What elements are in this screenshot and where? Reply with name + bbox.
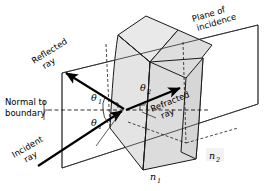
theta1-reflection-subscript: 1 [98, 98, 102, 106]
n1-symbol: n [150, 171, 156, 182]
reflected-ray-label: Reflected ray [30, 36, 74, 74]
n2-symbol: n [209, 150, 215, 161]
theta2-subscript: 2 [146, 88, 151, 96]
incident-ray-line [38, 111, 122, 166]
theta1-incidence-subscript: 1 [98, 123, 102, 131]
theta1-reflection-symbol: θ [91, 92, 97, 103]
index-n1-label: n 1 [150, 171, 161, 185]
theta1-incidence-symbol: θ [91, 117, 97, 128]
normal-to-boundary-label: Normal to boundary [5, 97, 47, 118]
theta2-symbol: θ [140, 82, 146, 93]
normal-label-line1: Normal to [5, 97, 47, 107]
n2-subscript: 2 [215, 156, 220, 164]
plane-of-incidence-label: Plane of incidence [191, 2, 238, 34]
n1-subscript: 1 [157, 177, 161, 185]
normal-label-line2: boundary [5, 108, 46, 118]
figure-canvas: Reflected ray Normal to boundary Inciden… [0, 0, 274, 191]
optics-refraction-figure: Reflected ray Normal to boundary Inciden… [0, 0, 274, 191]
boundary-surface [110, 16, 212, 170]
index-n2-label: n 2 [206, 148, 224, 164]
